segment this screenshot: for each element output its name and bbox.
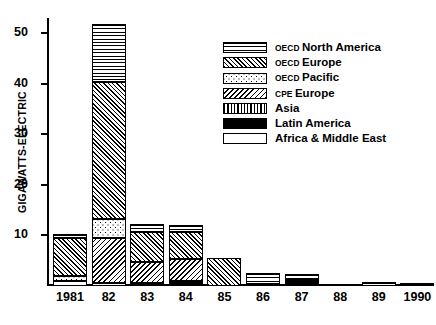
legend-label-4: Asia <box>275 103 299 115</box>
bar-segment-1981-diagonal-ne-dense <box>53 238 87 275</box>
bar-segment-86-solid-black <box>246 284 280 286</box>
y-tick-label-40: 40 <box>0 76 28 90</box>
legend-label-5: Latin America <box>275 118 351 130</box>
legend-label-3: CPE Europe <box>275 88 335 100</box>
legend-label-0: OECD North America <box>275 42 381 54</box>
bar-segment-82-horizontal-lines <box>92 24 126 82</box>
bar-segment-89-horizontal-lines <box>362 282 396 286</box>
legend-name-1: Europe <box>302 56 342 68</box>
x-tick-label-1990: 1990 <box>393 290 436 304</box>
legend-prefix-3: CPE <box>275 89 295 99</box>
bar-segment-84-horizontal-lines <box>169 225 203 232</box>
bar-segment-82-white <box>92 283 126 286</box>
bar-85 <box>207 258 241 286</box>
bar-segment-82-diagonal-ne-dense <box>92 82 126 219</box>
vertical-lines-swatch <box>223 103 267 114</box>
bar-segment-84-solid-black <box>169 281 203 284</box>
bar-segment-84-diagonal-nw <box>169 259 203 281</box>
bar-segment-83-diagonal-nw <box>130 262 164 283</box>
bar-1990 <box>400 283 434 286</box>
dots-swatch <box>223 73 267 84</box>
bar-1981 <box>53 234 87 286</box>
legend-name-0: North America <box>302 41 381 53</box>
legend-item-4: Asia <box>223 102 386 116</box>
diagonal-nw-swatch <box>223 88 267 99</box>
bar-segment-83-solid-black <box>130 283 164 286</box>
legend-label-2: OECD Pacific <box>275 72 339 84</box>
bar-segment-86-horizontal-lines <box>246 273 280 284</box>
legend: OECD North AmericaOECD EuropeOECD Pacifi… <box>223 41 386 147</box>
solid-black-swatch <box>223 118 267 129</box>
bar-89 <box>362 282 396 286</box>
bar-segment-83-horizontal-lines <box>130 224 164 232</box>
bar-segment-83-diagonal-ne-dense <box>130 232 164 262</box>
bar-segment-84-diagonal-ne-dense <box>169 232 203 259</box>
bar-segment-82-diagonal-nw <box>92 238 126 283</box>
legend-name-3: Europe <box>295 87 335 99</box>
bar-chart: GIGAWATTS-ELECTRIC 1020304050 1981828384… <box>0 0 436 325</box>
bar-segment-85-diagonal-ne-dense <box>207 258 241 286</box>
legend-name-4: Asia <box>275 102 299 114</box>
bar-segment-1981-white <box>53 281 87 286</box>
legend-name-6: Africa & Middle East <box>275 132 386 144</box>
legend-item-3: CPE Europe <box>223 87 386 101</box>
bar-segment-84-white <box>169 284 203 286</box>
legend-item-2: OECD Pacific <box>223 71 386 85</box>
legend-label-6: Africa & Middle East <box>275 133 386 145</box>
bar-segment-82-dots <box>92 219 126 238</box>
diagonal-ne-dense-swatch <box>223 57 267 68</box>
bar-83 <box>130 224 164 286</box>
legend-name-5: Latin America <box>275 117 351 129</box>
y-tick-label-50: 50 <box>0 25 28 39</box>
bar-segment-1981-horizontal-lines <box>53 234 87 239</box>
legend-prefix-2: OECD <box>275 73 302 83</box>
legend-item-1: OECD Europe <box>223 56 386 70</box>
bar-segment-1981-dots <box>53 276 87 282</box>
legend-item-0: OECD North America <box>223 41 386 55</box>
bar-segment-1990-solid-black <box>400 283 434 286</box>
y-tick-label-20: 20 <box>0 177 28 191</box>
legend-item-5: Latin America <box>223 117 386 131</box>
y-tick-label-30: 30 <box>0 126 28 140</box>
legend-prefix-0: OECD <box>275 43 302 53</box>
white-swatch <box>223 133 267 144</box>
bar-86 <box>246 273 280 286</box>
legend-prefix-1: OECD <box>275 58 302 68</box>
bar-84 <box>169 225 203 286</box>
bar-segment-87-solid-black <box>285 279 319 286</box>
y-tick-label-10: 10 <box>0 227 28 241</box>
bar-87 <box>285 274 319 286</box>
legend-label-1: OECD Europe <box>275 57 342 69</box>
bar-segment-87-horizontal-lines <box>285 274 319 279</box>
legend-name-2: Pacific <box>302 71 339 83</box>
legend-item-6: Africa & Middle East <box>223 132 386 146</box>
bar-82 <box>92 24 126 286</box>
horizontal-lines-swatch <box>223 42 267 53</box>
